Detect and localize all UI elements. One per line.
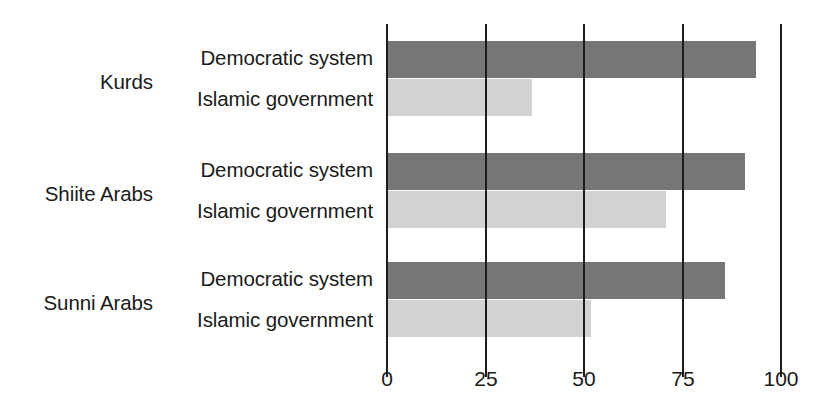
- series-label-kurds-islamic: Islamic government: [197, 89, 373, 110]
- group-label-kurds: Kurds: [100, 72, 153, 93]
- series-label-shiite-democratic: Democratic system: [200, 160, 373, 181]
- group-label-sunni-arabs: Sunni Arabs: [44, 293, 153, 314]
- bar-kurds-democratic: [386, 41, 756, 78]
- tick-label-75: 75: [671, 368, 694, 389]
- series-label-sunni-democratic: Democratic system: [200, 269, 373, 290]
- bar-shiite-democratic: [386, 153, 745, 190]
- series-label-shiite-islamic: Islamic government: [197, 201, 373, 222]
- tick-label-25: 25: [474, 368, 497, 389]
- plot-area: [386, 24, 780, 362]
- group-label-shiite-arabs: Shiite Arabs: [45, 184, 153, 205]
- bar-sunni-islamic: [386, 300, 591, 337]
- gridline-25: [485, 24, 487, 362]
- tick-label-100: 100: [763, 368, 798, 389]
- gridline-50: [583, 24, 585, 362]
- bar-shiite-islamic: [386, 191, 666, 228]
- bar-sunni-democratic: [386, 262, 725, 299]
- tick-label-50: 50: [572, 368, 595, 389]
- series-label-kurds-democratic: Democratic system: [200, 48, 373, 69]
- grouped-bar-chart: Kurds Democratic system Islamic governme…: [0, 0, 833, 418]
- tick-label-0: 0: [381, 368, 393, 389]
- series-label-sunni-islamic: Islamic government: [197, 310, 373, 331]
- gridline-100: [780, 24, 782, 362]
- bar-kurds-islamic: [386, 79, 532, 116]
- gridline-75: [682, 24, 684, 362]
- gridline-0: [386, 24, 388, 362]
